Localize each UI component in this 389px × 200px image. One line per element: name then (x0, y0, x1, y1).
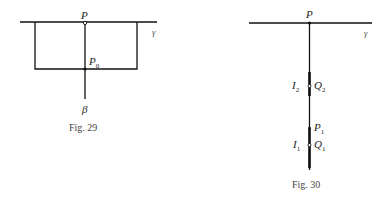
point-Q2 (308, 85, 311, 88)
label-P1-sub: 1 (321, 128, 325, 136)
caption-fig-29: Fig. 29 (69, 123, 97, 133)
point-P-30 (308, 22, 311, 25)
label-Q2-base: Q (314, 79, 322, 91)
label-Q1-base: Q (314, 138, 322, 150)
label-gamma: γ (152, 27, 156, 38)
point-P (83, 21, 86, 24)
point-Q1 (308, 144, 311, 147)
label-P0: P0 (89, 56, 99, 72)
label-I2-sub: 2 (296, 86, 300, 94)
label-P-30: P (306, 9, 313, 20)
label-P1-base: P (314, 121, 321, 133)
label-P0-sub: 0 (96, 62, 100, 70)
label-P1: P1 (314, 122, 324, 138)
point-P0 (83, 67, 86, 70)
label-Q2: Q2 (314, 80, 325, 96)
label-gamma-30: γ (364, 28, 368, 39)
caption-fig-30: Fig. 30 (292, 180, 320, 190)
label-I2: I2 (292, 80, 299, 96)
label-I1-sub: 1 (297, 145, 301, 153)
label-P0-base: P (89, 55, 96, 67)
point-P1 (308, 127, 311, 130)
label-Q1: Q1 (314, 139, 325, 155)
label-Q2-sub: 2 (322, 86, 326, 94)
rectangle-loop (35, 22, 137, 69)
label-beta: β (82, 104, 87, 115)
label-P: P (81, 10, 88, 21)
label-I1: I1 (293, 139, 300, 155)
label-Q1-sub: 1 (322, 145, 326, 153)
figure-29-drawing (0, 0, 389, 200)
